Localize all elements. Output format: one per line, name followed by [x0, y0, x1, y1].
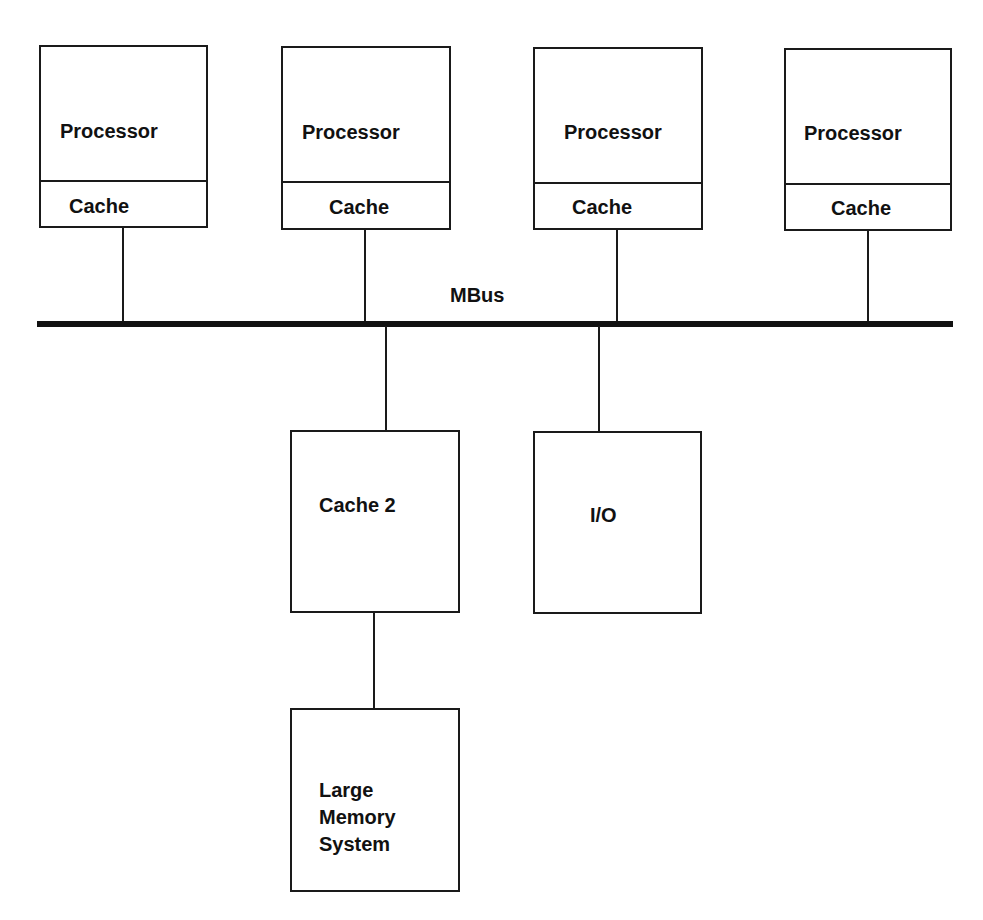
- io-node: I/O: [533, 431, 702, 614]
- connector-line: [364, 229, 366, 323]
- processor-label: Processor: [302, 122, 400, 142]
- processor-cache-divider: [41, 180, 206, 182]
- processor-node-1: Processor Cache: [39, 45, 208, 228]
- processor-node-2: Processor Cache: [281, 46, 451, 230]
- connector-line: [598, 326, 600, 432]
- connector-line: [122, 227, 124, 323]
- processor-node-4: Processor Cache: [784, 48, 952, 231]
- connector-line: [867, 230, 869, 323]
- processor-cache-divider: [283, 181, 449, 183]
- cache-label: Cache: [329, 197, 389, 217]
- processor-label: Processor: [564, 122, 662, 142]
- cache2-label: Cache 2: [319, 495, 396, 515]
- cache-label: Cache: [572, 197, 632, 217]
- memory-node: Large Memory System: [290, 708, 460, 892]
- processor-label: Processor: [60, 121, 158, 141]
- mbus-label: MBus: [450, 285, 504, 305]
- connector-line: [385, 326, 387, 431]
- memory-label: Large Memory System: [319, 777, 396, 858]
- cache2-node: Cache 2: [290, 430, 460, 613]
- processor-cache-divider: [535, 182, 701, 184]
- processor-node-3: Processor Cache: [533, 47, 703, 230]
- io-label: I/O: [590, 505, 617, 525]
- connector-line: [616, 229, 618, 323]
- connector-line: [373, 612, 375, 709]
- cache-label: Cache: [69, 196, 129, 216]
- cache-label: Cache: [831, 198, 891, 218]
- mbus-line: [37, 321, 953, 327]
- processor-cache-divider: [786, 183, 950, 185]
- processor-label: Processor: [804, 123, 902, 143]
